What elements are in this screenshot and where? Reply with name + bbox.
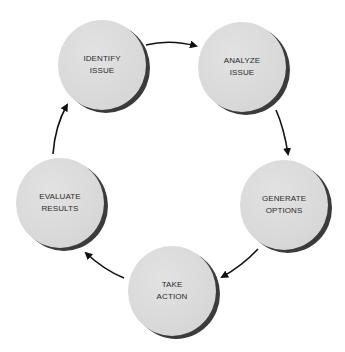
node-circle: GENERATE OPTIONS [240, 160, 328, 250]
arrow-generate-to-take [222, 249, 258, 277]
node-label-line1: EVALUATE [39, 191, 80, 203]
cycle-diagram: IDENTIFY ISSUE ANALYZE ISSUE GENERATE OP… [0, 0, 345, 352]
node-label-line2: ISSUE [230, 67, 255, 79]
node-label-line1: IDENTIFY [83, 53, 120, 65]
node-identify-issue: IDENTIFY ISSUE [58, 20, 146, 110]
arrow-take-to-evaluate [86, 253, 124, 278]
node-label-line2: ACTION [157, 291, 188, 303]
node-circle: IDENTIFY ISSUE [58, 20, 146, 110]
node-label-line1: GENERATE [262, 193, 306, 205]
node-circle: TAKE ACTION [128, 246, 216, 336]
node-evaluate-results: EVALUATE RESULTS [16, 158, 104, 248]
node-analyze-issue: ANALYZE ISSUE [198, 22, 286, 112]
arrow-analyze-to-generate [276, 110, 288, 154]
node-circle: EVALUATE RESULTS [16, 158, 104, 248]
node-circle: ANALYZE ISSUE [198, 22, 286, 112]
node-label-line2: RESULTS [41, 203, 78, 215]
arrow-evaluate-to-identify [53, 105, 67, 154]
node-label-line1: TAKE [162, 279, 183, 291]
node-label-line1: ANALYZE [224, 55, 261, 67]
node-label-line2: OPTIONS [266, 205, 303, 217]
node-take-action: TAKE ACTION [128, 246, 216, 336]
node-label-line2: ISSUE [90, 65, 115, 77]
arrow-identify-to-analyze [146, 42, 196, 46]
node-generate-options: GENERATE OPTIONS [240, 160, 328, 250]
